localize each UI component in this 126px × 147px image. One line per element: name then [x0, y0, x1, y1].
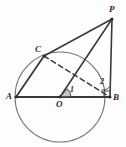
point-label-C: C — [35, 45, 41, 54]
point-label-A: A — [6, 92, 12, 101]
segment-OP — [60, 19, 112, 97]
point-label-P: P — [109, 5, 115, 14]
vertex-dot-B — [109, 96, 112, 99]
figure-canvas — [0, 0, 126, 147]
segment-CP — [44, 19, 112, 56]
angle-label-2: 2 — [100, 78, 104, 86]
geometry-figure: A B C O P 1 2 — [0, 0, 126, 147]
segment-BP — [110, 19, 112, 97]
angle-label-1: 1 — [70, 86, 74, 94]
vertex-dot-P — [111, 18, 114, 21]
point-label-O: O — [56, 100, 63, 109]
vertex-dot-C — [43, 55, 46, 58]
point-label-B: B — [113, 93, 119, 102]
vertex-dot-O — [59, 96, 62, 99]
vertex-dot-A — [15, 96, 18, 99]
angle-2-arc-at-B — [101, 86, 110, 90]
